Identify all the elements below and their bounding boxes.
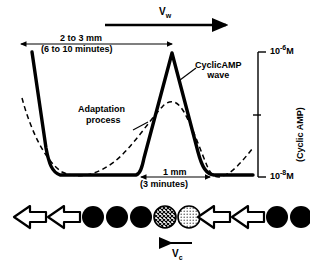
cell-circle-light — [178, 206, 200, 228]
cell-arrow-4 — [232, 206, 264, 228]
cell-arrow-2 — [48, 206, 80, 228]
pulse-distance-label: 1 mm — [163, 167, 187, 177]
camp-wave-figure: Vw 2 to 3 mm (6 to 10 minutes) CyclicAMP… — [0, 0, 310, 268]
y-axis-bottom-label: 10-8M — [270, 169, 294, 181]
adaptation-process-curve — [22, 98, 253, 177]
cell-arrow-3 — [198, 206, 230, 228]
cell-arrow-1 — [14, 206, 46, 228]
cell-circle-hatched — [154, 206, 176, 228]
cell-row — [14, 206, 310, 228]
cell-circle-1 — [82, 206, 104, 228]
cell-circle-3 — [130, 206, 152, 228]
wave-velocity-label: Vw — [159, 6, 171, 20]
cell-circle-2 — [106, 206, 128, 228]
cell-circle-5 — [290, 206, 310, 228]
figure-canvas — [0, 0, 310, 268]
wavelength-distance-label: 2 to 3 mm — [60, 33, 102, 43]
wave-label-leader — [180, 68, 196, 80]
y-axis-top-label: 10-6M — [270, 44, 294, 56]
adaptation-label-line1: Adaptation — [78, 104, 125, 114]
y-axis-title: (Cyclic AMP) — [295, 107, 305, 162]
cell-circle-4 — [266, 206, 288, 228]
adaptation-label-line2: process — [86, 115, 121, 125]
cell-velocity-label: Vc — [172, 248, 183, 262]
wave-label: CyclicAMP wave — [195, 60, 242, 80]
wavelength-time-label: (6 to 10 minutes) — [41, 44, 113, 54]
pulse-time-label: (3 minutes) — [140, 179, 188, 189]
